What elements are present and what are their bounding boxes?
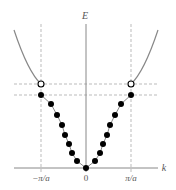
state-dot (74, 158, 80, 164)
tick-label-pi-over-a: π/a (125, 174, 137, 183)
left-parabola-branch (14, 30, 41, 84)
left-open-circle (38, 81, 44, 87)
origin-state-dot (83, 165, 89, 171)
left-state-dots (38, 92, 80, 164)
state-dot (69, 150, 75, 156)
y-axis-label: E (82, 11, 88, 21)
state-dot (128, 92, 134, 98)
state-dot (100, 141, 106, 147)
tick-label-zero: 0 (84, 174, 89, 183)
right-parabola-branch (131, 30, 158, 84)
state-dot (104, 132, 110, 138)
state-dot (107, 122, 113, 128)
state-dot (62, 132, 68, 138)
state-dot (38, 92, 44, 98)
right-open-circle (128, 81, 134, 87)
state-dot (97, 150, 103, 156)
state-dot (118, 101, 124, 107)
state-dot (66, 141, 72, 147)
state-dot (54, 112, 60, 118)
right-state-dots (92, 92, 134, 164)
tick-label-neg-pi-over-a: −π/a (32, 174, 50, 183)
state-dot (59, 122, 65, 128)
dispersion-diagram (0, 0, 176, 190)
state-dot (92, 158, 98, 164)
state-dot (112, 112, 118, 118)
x-axis-label: k (162, 163, 166, 173)
state-dot (48, 101, 54, 107)
